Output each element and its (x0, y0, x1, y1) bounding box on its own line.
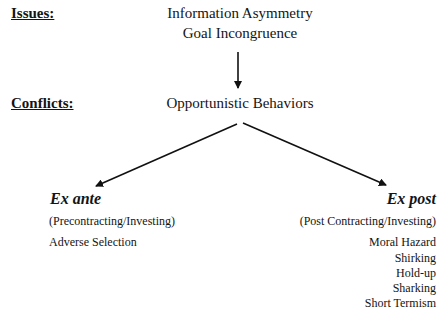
hold-up: Hold-up (396, 267, 436, 279)
ex-ante-title: Ex ante (50, 191, 101, 207)
shirking: Shirking (395, 252, 436, 264)
sharking: Sharking (393, 282, 436, 294)
moral-hazard: Moral Hazard (369, 236, 436, 248)
right-branch-arrow-icon (243, 123, 386, 185)
short-termism: Short Termism (365, 297, 436, 309)
arrows (0, 0, 445, 314)
left-branch-arrow-icon (96, 124, 237, 186)
ex-ante-subtitle: (Precontracting/Investing) (49, 215, 175, 227)
adverse-selection: Adverse Selection (49, 236, 137, 248)
ex-post-title: Ex post (387, 191, 436, 207)
ex-post-subtitle: (Post Contracting/Investing) (300, 215, 436, 227)
